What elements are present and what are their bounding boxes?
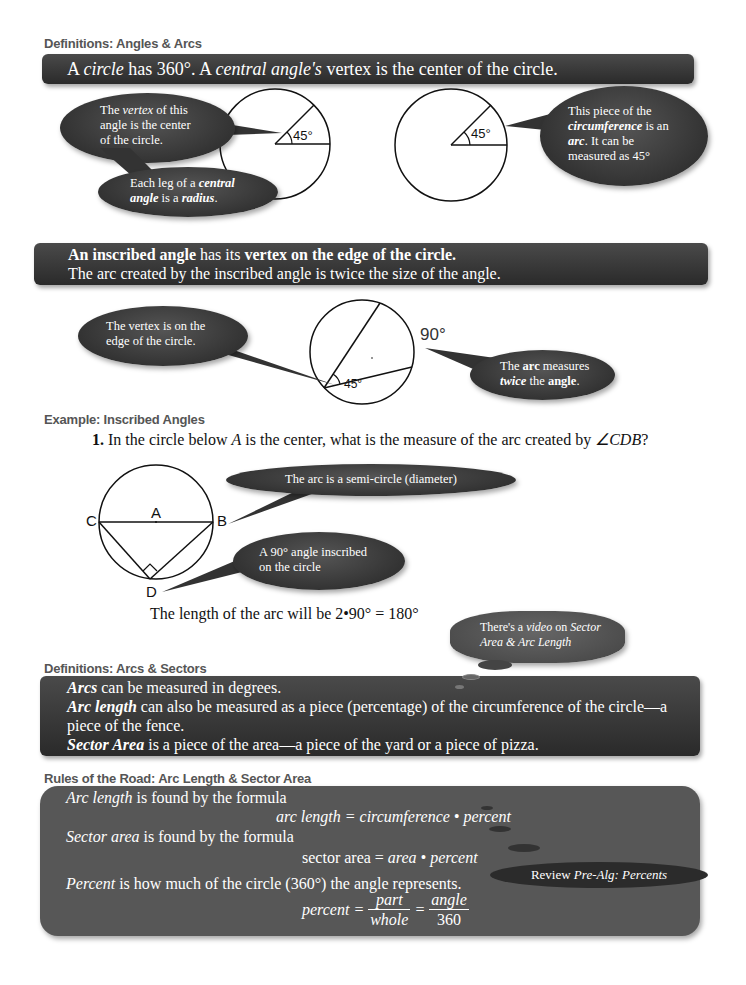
rules-panel: Arc length is found by the formula arc l… [40, 786, 700, 936]
text: of this [153, 103, 188, 117]
text: is a [158, 191, 181, 205]
section-heading-rules: Rules of the Road: Arc Length & Sector A… [44, 771, 311, 786]
text: The vertex is on the [106, 319, 205, 334]
text: . It can be [585, 134, 634, 148]
text: The arc created by the inscribed angle i… [68, 264, 708, 283]
arc-label-90: 90° [420, 325, 446, 345]
thought-dot [508, 844, 540, 852]
term-circle: circle [84, 59, 124, 79]
text: on the circle [259, 560, 367, 575]
formula-percent: percent = partwhole = angle360 [302, 890, 469, 929]
text: is found by the formula [140, 828, 294, 845]
text: Review [531, 867, 574, 882]
term-arcs: Arcs [67, 679, 97, 696]
fraction-part-whole: partwhole [368, 890, 410, 929]
text: piece of the fence. [67, 716, 700, 735]
text: is an [642, 119, 668, 133]
example-answer: The length of the arc will be 2•90° = 18… [150, 605, 419, 623]
text: . [214, 191, 217, 205]
callout-leg-radius: Each leg of a central angle is a radius. [98, 167, 278, 217]
text: Each leg of a [130, 176, 199, 190]
text: measured as 45° [568, 149, 669, 164]
text: has its [196, 246, 244, 263]
term-vertex-edge: vertex on the edge of the circle. [244, 246, 456, 263]
text: vertex is the center of the circle. [322, 59, 558, 79]
bubble-tail [162, 560, 242, 594]
circle-arc-diagram [395, 88, 510, 208]
text: the [526, 374, 548, 388]
text: = [414, 901, 425, 918]
text: area • percent [388, 849, 478, 866]
text: The [100, 103, 123, 117]
angle-label-45: 45° [344, 377, 362, 391]
term-sector-area: Sector Area [67, 736, 144, 753]
term-twice: twice [500, 374, 526, 388]
callout-arc-circumference: This piece of the circumference is an ar… [540, 86, 708, 186]
callout-video-note: There's a video on Sector Area & Arc Len… [450, 611, 625, 663]
text: on [552, 620, 570, 634]
term-arc-length: Arc length [66, 789, 133, 806]
text: The arc is a semi-circle (diameter) [226, 472, 516, 487]
text: This piece of the [568, 104, 669, 119]
section-heading-example: Example: Inscribed Angles [44, 412, 205, 427]
example-question: 1. In the circle below A is the center, … [92, 430, 648, 449]
denominator: 360 [429, 910, 469, 929]
numerator: angle [429, 890, 469, 910]
text: is found by the formula [133, 789, 287, 806]
fraction-angle-360: angle360 [429, 890, 469, 929]
text: In the circle below [104, 431, 232, 448]
text: A [67, 59, 84, 79]
callout-90-inscribed: A 90° angle inscribed on the circle [233, 532, 405, 590]
angle-label-45: 45° [293, 128, 313, 143]
banner-arcs-sectors: Arcs can be measured in degrees. Arc len… [40, 676, 700, 756]
link-pre-alg-percents[interactable]: Pre-Alg: Percents [574, 867, 667, 882]
formula-sector-area: sector area = area • percent [302, 848, 478, 867]
callout-vertex-edge: The vertex is on the edge of the circle. [78, 306, 248, 366]
term-inscribed-angle: An inscribed angle [68, 246, 196, 263]
text: The [500, 359, 523, 373]
term-angle: angle [548, 374, 576, 388]
term-sector-area: Sector area [66, 828, 140, 845]
term-percent: Percent [66, 875, 115, 892]
denominator: whole [368, 910, 410, 929]
text: is the center, what is the measure of th… [241, 431, 595, 448]
text: Area & Arc Length [480, 635, 571, 649]
text: measures [540, 359, 590, 373]
text: is a piece of the area—a piece of the ya… [144, 736, 538, 753]
formula-arc-length: arc length = circumference • percent [276, 807, 511, 826]
term-arc-length: Arc length [67, 698, 137, 715]
point-label-a: A [151, 504, 161, 521]
angle-label-45: 45° [471, 126, 491, 141]
term-video: video [526, 620, 552, 634]
thought-dot [481, 806, 493, 810]
term-radius: radius [182, 191, 215, 205]
thought-dot [455, 685, 464, 689]
point-label-c: C [86, 512, 97, 529]
text: has 360°. A [124, 59, 216, 79]
term-circumference: circumference [568, 119, 642, 133]
text: percent = [302, 901, 364, 918]
section-heading-angles-arcs: Definitions: Angles & Arcs [44, 36, 202, 51]
term-angle: angle [130, 191, 158, 205]
text: sector area = [302, 849, 388, 866]
thought-dot [478, 660, 512, 670]
term-central: central [199, 176, 235, 190]
point-label-d: D [146, 583, 157, 600]
angle-cdb: ∠CDB [595, 431, 641, 448]
banner-inscribed-angle: An inscribed angle has its vertex on the… [34, 243, 708, 285]
text: Sector [570, 620, 601, 634]
banner-circle-definition: A circle has 360°. A central angle's ver… [42, 54, 694, 84]
var-a: A [232, 431, 242, 448]
callout-semicircle: The arc is a semi-circle (diameter) [226, 464, 516, 496]
bubble-tail [228, 490, 318, 526]
thought-dot [462, 674, 480, 680]
text: can be measured in degrees. [97, 679, 281, 696]
review-link-callout[interactable]: Review Pre-Alg: Percents [490, 862, 708, 888]
text: A 90° angle inscribed [259, 545, 367, 560]
section-heading-arcs-sectors: Definitions: Arcs & Sectors [44, 661, 206, 676]
text: can also be measured as a piece (percent… [137, 698, 667, 715]
point-label-b: B [217, 512, 227, 529]
term-vertex: vertex [123, 103, 154, 117]
text: of the circle. [100, 133, 191, 148]
callout-arc-twice: The arc measures twice the angle. [470, 350, 615, 400]
